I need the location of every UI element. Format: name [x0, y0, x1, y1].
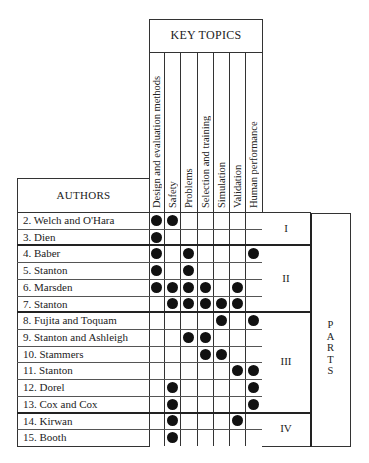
row-divider	[17, 362, 262, 363]
key-topics-title: KEY TOPICS	[149, 28, 263, 43]
topic-dot	[248, 382, 259, 393]
topic-dot	[151, 282, 162, 293]
parts-letter: S	[310, 365, 351, 377]
part-divider	[17, 244, 310, 246]
topic-dot	[248, 248, 259, 259]
part-numeral: IV	[262, 422, 310, 434]
row-divider	[17, 279, 262, 280]
author-name: 6. Marsden	[23, 281, 73, 293]
parts-title: PARTS	[310, 319, 351, 377]
topic-dot	[167, 215, 178, 226]
topic-dot	[200, 282, 211, 293]
parts-letter: P	[310, 319, 351, 331]
topic-dot	[151, 265, 162, 276]
parts-letter: T	[310, 354, 351, 366]
topic-dot	[216, 298, 227, 309]
author-name: 15. Booth	[23, 431, 66, 443]
topic-dot	[232, 415, 243, 426]
topic-label: Selection and training	[197, 56, 213, 208]
topic-dot	[183, 248, 194, 259]
topic-dot	[151, 248, 162, 259]
author-name: 3. Dien	[23, 231, 55, 243]
parts-letter: A	[310, 331, 351, 343]
topic-dot	[232, 282, 243, 293]
row-divider	[17, 379, 262, 380]
topic-dot	[248, 365, 259, 376]
topic-label: Problems	[180, 56, 197, 208]
topic-dot	[167, 432, 178, 443]
topic-dot	[232, 298, 243, 309]
author-name: 13. Cox and Cox	[23, 398, 98, 410]
topic-label: Safety	[164, 56, 180, 208]
topic-dot	[183, 282, 194, 293]
part-numeral: II	[262, 272, 310, 284]
topic-dot	[167, 298, 178, 309]
topic-dot	[167, 282, 178, 293]
part-divider	[17, 311, 310, 313]
topic-dot	[183, 332, 194, 343]
parts-letter: R	[310, 342, 351, 354]
part-numeral: I	[262, 222, 310, 234]
topic-dot	[248, 399, 259, 410]
row-divider	[17, 429, 262, 430]
header-divider	[17, 212, 262, 213]
authors-title: AUTHORS	[17, 189, 150, 201]
topic-dot	[200, 349, 211, 360]
part-numeral: III	[262, 355, 310, 367]
topic-dot	[200, 298, 211, 309]
author-name: 2. Welch and O'Hara	[23, 214, 114, 226]
topic-dot	[167, 415, 178, 426]
topic-dot	[167, 382, 178, 393]
topic-dot	[183, 298, 194, 309]
author-name: 7. Stanton	[23, 298, 68, 310]
topic-label: Human performance	[245, 56, 262, 208]
topic-label: Design and evaluation methods	[149, 56, 164, 208]
author-name: 4. Baber	[23, 247, 60, 259]
topic-dot	[216, 315, 227, 326]
topic-label: Validation	[229, 56, 245, 208]
topic-dot	[232, 365, 243, 376]
row-divider	[17, 396, 262, 397]
topic-dot	[183, 265, 194, 276]
topic-label: Simulation	[213, 56, 229, 208]
topic-dot	[216, 349, 227, 360]
author-name: 11. Stanton	[23, 364, 73, 376]
topic-dot	[248, 315, 259, 326]
author-name: 9. Stanton and Ashleigh	[23, 331, 128, 343]
author-name: 8. Fujita and Toquam	[23, 314, 117, 326]
author-name: 10. Stammers	[23, 348, 84, 360]
author-name: 5. Stanton	[23, 264, 68, 276]
topic-dot	[167, 399, 178, 410]
row-divider	[17, 329, 262, 330]
author-name: 12. Dorel	[23, 381, 65, 393]
row-divider	[17, 262, 262, 263]
topic-dot	[200, 332, 211, 343]
topic-dot	[151, 232, 162, 243]
topic-dot	[151, 215, 162, 226]
author-name: 14. Kirwan	[23, 415, 73, 427]
